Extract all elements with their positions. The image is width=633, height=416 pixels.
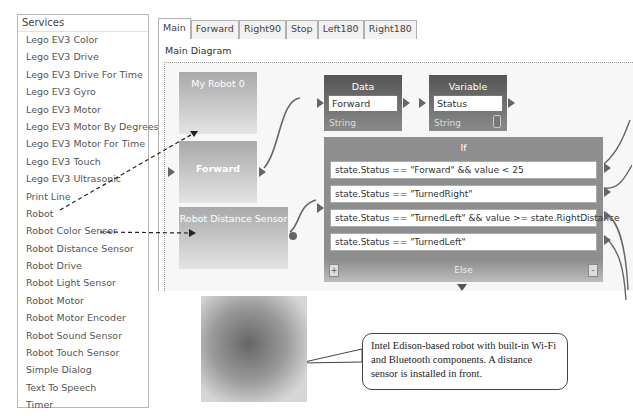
output-arrow-icon [403, 98, 410, 108]
variable-value-field[interactable]: Status [433, 95, 503, 112]
input-arrow-icon [419, 98, 426, 108]
tab-main[interactable]: Main [158, 18, 191, 39]
service-item[interactable]: Robot Color Sensor [18, 223, 148, 240]
diagram-title: Main Diagram [165, 45, 232, 56]
annotation-callout: Intel Edison-based robot with built-in W… [362, 333, 568, 390]
tab-forward[interactable]: Forward [191, 20, 239, 39]
service-item[interactable]: Robot Motor Encoder [18, 310, 148, 327]
tab-left180[interactable]: Left180 [318, 20, 364, 39]
output-arrow-icon [604, 163, 611, 173]
output-arrow-icon [604, 211, 611, 221]
service-item[interactable]: Lego EV3 Drive For Time [18, 67, 148, 84]
service-item[interactable]: Lego EV3 Touch [18, 154, 148, 171]
services-header: Services [18, 15, 148, 32]
tab-right180[interactable]: Right180 [364, 20, 417, 39]
service-item[interactable]: Lego EV3 Ultrasonic [18, 171, 148, 188]
main-diagram-panel: Main Diagram My Robot 0 Forward Robot Di… [158, 39, 632, 291]
service-item[interactable]: Robot Touch Sensor [18, 345, 148, 362]
service-item[interactable]: Print Line [18, 189, 148, 206]
service-item[interactable]: Robot [18, 206, 148, 223]
service-item[interactable]: Lego EV3 Motor By Degrees [18, 119, 148, 136]
service-item[interactable]: Lego EV3 Drive [18, 49, 148, 66]
service-item[interactable]: Robot Sound Sensor [18, 328, 148, 345]
input-arrow-icon [317, 98, 324, 108]
if-block-title: If [324, 137, 603, 153]
else-label: Else [324, 265, 603, 275]
tab-right90[interactable]: Right90 [239, 20, 286, 39]
service-item[interactable]: Robot Light Sensor [18, 275, 148, 292]
service-item[interactable]: Robot Distance Sensor [18, 241, 148, 258]
services-list: Lego EV3 Color Lego EV3 Drive Lego EV3 D… [18, 32, 148, 415]
service-item[interactable]: Lego EV3 Motor For Time [18, 136, 148, 153]
service-item[interactable]: Lego EV3 Color [18, 32, 148, 49]
my-robot-block[interactable]: My Robot 0 [179, 72, 257, 134]
service-item[interactable]: Lego EV3 Motor [18, 102, 148, 119]
if-condition-2[interactable]: state.Status == "TurnedRight" [330, 185, 597, 203]
if-condition-1[interactable]: state.Status == "Forward" && value < 25 [330, 161, 597, 179]
if-condition-4[interactable]: state.Status == "TurnedLeft" [330, 233, 597, 251]
forward-block[interactable]: Forward [179, 141, 257, 203]
service-item[interactable]: Simple Dialog [18, 362, 148, 379]
variable-toggle-icon[interactable] [493, 115, 501, 128]
connection-dot-icon[interactable] [289, 232, 297, 240]
data-block[interactable]: Data Forward String [324, 75, 402, 131]
variable-type-label: String [434, 118, 461, 128]
data-block-title: Data [324, 75, 402, 92]
if-condition-3[interactable]: state.Status == "TurnedLeft" && value >=… [330, 209, 597, 227]
else-output-arrow-icon [457, 284, 467, 291]
data-value-field[interactable]: Forward [328, 95, 398, 112]
input-arrow-icon [317, 203, 324, 213]
service-item[interactable]: Text To Speech [18, 380, 148, 397]
diagram-canvas[interactable]: My Robot 0 Forward Robot Distance Sensor… [164, 62, 633, 291]
forward-label: Forward [179, 141, 257, 174]
service-item[interactable]: Robot Motor [18, 293, 148, 310]
remove-condition-button[interactable]: - [588, 264, 598, 277]
output-arrow-icon [259, 167, 266, 177]
variable-block-title: Variable [429, 75, 507, 92]
tab-stop[interactable]: Stop [286, 20, 318, 39]
service-item[interactable]: Lego EV3 Gyro [18, 84, 148, 101]
distance-sensor-label: Robot Distance Sensor [179, 207, 288, 224]
output-arrow-icon [508, 98, 515, 108]
robot-distance-sensor-block[interactable]: Robot Distance Sensor [179, 207, 288, 269]
if-else-footer: + Else - [324, 260, 603, 282]
output-arrow-icon [604, 187, 611, 197]
variable-block[interactable]: Variable Status String [429, 75, 507, 131]
data-type-label: String [329, 118, 356, 128]
if-block[interactable]: If state.Status == "Forward" && value < … [324, 137, 603, 282]
input-arrow-icon [168, 167, 175, 177]
diagram-tabs: Main Forward Right90 Stop Left180 Right1… [158, 20, 417, 39]
robot-photo [201, 296, 307, 402]
output-arrow-icon [604, 235, 611, 245]
my-robot-label: My Robot 0 [179, 72, 257, 89]
service-item[interactable]: Timer [18, 397, 148, 414]
services-panel: Services Lego EV3 Color Lego EV3 Drive L… [17, 14, 149, 408]
service-item[interactable]: Robot Drive [18, 258, 148, 275]
